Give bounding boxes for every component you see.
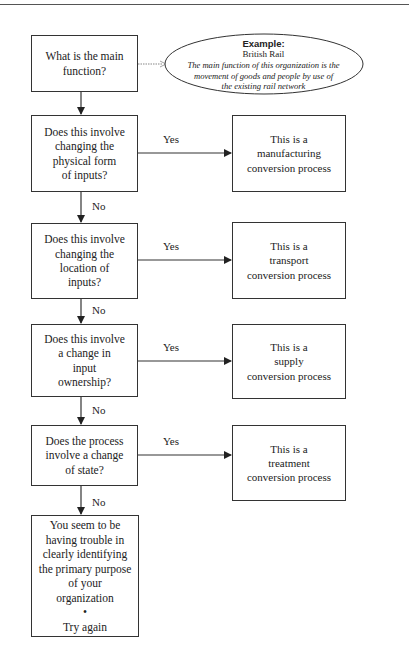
question-box-change-of-state: Does the process involve a change of sta… <box>31 425 138 486</box>
question-box-ownership: Does this involve a change in input owne… <box>31 324 138 397</box>
question-text: Does this involve a change in input owne… <box>44 332 125 389</box>
example-callout: Example: British Rail The main function … <box>166 38 361 92</box>
yes-label: Yes <box>163 133 179 145</box>
example-title: Example: <box>166 38 361 49</box>
question-text: Does this involve changing the location … <box>44 232 125 289</box>
question-text: Does this involve changing the physical … <box>44 125 125 182</box>
yes-label: Yes <box>163 240 179 252</box>
result-text: This is a treatment conversion process <box>247 442 331 485</box>
result-box-manufacturing: This is a manufacturing conversion proce… <box>232 115 346 192</box>
yes-label: Yes <box>163 341 179 353</box>
no-label: No <box>92 304 105 316</box>
yes-label: Yes <box>163 435 179 447</box>
no-label: No <box>92 496 105 508</box>
fallback-box: You seem to be having trouble in clearly… <box>31 515 139 637</box>
result-box-transport: This is a transport conversion process <box>232 222 346 299</box>
start-box: What is the main function? <box>31 35 138 92</box>
question-box-location: Does this involve changing the location … <box>31 223 138 299</box>
no-label: No <box>92 404 105 416</box>
result-text: This is a transport conversion process <box>247 239 331 282</box>
result-box-supply: This is a supply conversion process <box>232 324 346 399</box>
no-label: No <box>92 200 105 212</box>
question-text: Does the process involve a change of sta… <box>46 434 124 477</box>
question-box-physical-form: Does this involve changing the physical … <box>31 115 138 192</box>
example-body: The main function of this organization i… <box>166 60 361 92</box>
result-box-treatment: This is a treatment conversion process <box>232 425 346 501</box>
start-text: What is the main function? <box>45 49 123 78</box>
result-text: This is a supply conversion process <box>247 340 331 383</box>
result-text: This is a manufacturing conversion proce… <box>247 132 331 175</box>
fallback-text: You seem to be having trouble in clearly… <box>39 518 132 634</box>
example-subtitle: British Rail <box>166 49 361 60</box>
